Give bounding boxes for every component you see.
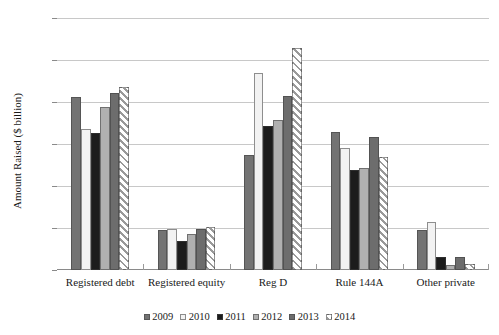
bar [283,96,293,270]
bar [254,73,264,270]
legend-label: 2013 [298,311,319,322]
bar [91,133,101,270]
bar [359,168,369,270]
bar-group [57,18,143,270]
y-axis-tick-mark [52,270,57,271]
legend-item-2013[interactable]: 2013 [289,311,319,322]
legend-item-2014[interactable]: 2014 [326,311,356,322]
bar [350,170,360,270]
x-axis-group-separator [316,264,317,270]
x-axis-group-separator [403,264,404,270]
legend-label: 2010 [189,311,210,322]
bar [196,229,206,270]
bar [158,230,168,270]
legend-label: 2009 [152,311,173,322]
bar-chart: Amount Raised ($ billion) 02505007501,00… [0,0,499,335]
y-axis-title: Amount Raised ($ billion) [11,56,23,246]
bar [110,93,120,270]
bar [379,157,389,270]
chart-legend: 200920102011201220132014 [0,311,499,322]
bar [100,107,110,270]
legend-item-2011[interactable]: 2011 [217,311,246,322]
bar [177,241,187,270]
bar [465,264,475,270]
bar [81,129,91,270]
bar [187,234,197,270]
bar [71,97,81,270]
legend-item-2012[interactable]: 2012 [253,311,283,322]
bar-group [230,18,316,270]
legend-item-2009[interactable]: 2009 [144,311,174,322]
bar-group [403,18,489,270]
bar [167,229,177,270]
bar [369,137,379,270]
x-axis-group-separator [230,264,231,270]
legend-swatch-icon [326,314,332,320]
legend-swatch-icon [253,314,259,320]
legend-swatch-icon [144,314,150,320]
x-axis-category-label: Reg D [230,276,316,288]
bar [446,265,456,270]
bar-group [316,18,402,270]
legend-item-2010[interactable]: 2010 [180,311,210,322]
legend-label: 2012 [261,311,282,322]
bar [273,120,283,270]
x-axis-group-separator [488,264,489,270]
bar [206,227,216,270]
x-axis-group-separator [143,264,144,270]
bar [340,148,350,270]
bar-group [143,18,229,270]
x-axis-category-label: Registered debt [57,276,143,288]
bar [331,132,341,270]
legend-label: 2011 [225,311,246,322]
bar [119,87,129,270]
bar [292,48,302,270]
legend-swatch-icon [289,314,295,320]
plot-area [57,18,489,270]
bar [427,222,437,270]
legend-swatch-icon [180,314,186,320]
legend-swatch-icon [217,314,223,320]
x-axis-category-label: Rule 144A [316,276,402,288]
bar [263,126,273,270]
bar [417,230,427,270]
x-axis-category-label: Other private [403,276,489,288]
x-axis-category-label: Registered equity [143,276,229,288]
bar [455,257,465,270]
bar [436,257,446,270]
legend-label: 2014 [334,311,355,322]
bar [244,155,254,270]
